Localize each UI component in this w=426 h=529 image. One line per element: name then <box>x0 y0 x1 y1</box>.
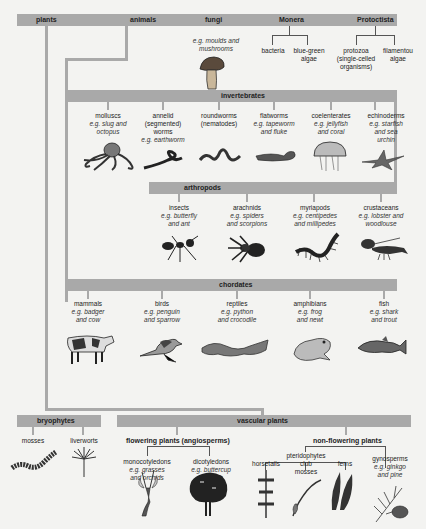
python-icon <box>200 338 270 360</box>
chord-drop-1 <box>87 291 89 299</box>
arthropod-crustaceans: crustaceanse.g. lobster andwoodlouse <box>350 204 412 228</box>
chordates-bar: chordates <box>67 279 397 291</box>
vascular-plants-title: vascular plants <box>237 417 288 424</box>
bryophyte-mosses: mosses <box>12 437 54 445</box>
protoctista-hbar <box>356 35 395 36</box>
invertebrate-echinoderms: echinodermse.g. starfishand seaurchin <box>358 112 414 144</box>
chord-drop-5 <box>383 291 385 299</box>
sparrow-icon <box>138 334 186 364</box>
nonflowering-hbar <box>305 446 386 447</box>
inv-drop-3 <box>218 102 220 110</box>
arth-drop-4 <box>380 194 382 202</box>
chordate-mammals: mammalse.g. badgerand cow <box>58 300 118 324</box>
pine-icon <box>372 484 412 524</box>
gymnosperms: gynospermse.g. ginkgoand pine <box>362 455 418 479</box>
fern-icon <box>328 470 356 514</box>
pteridophyte-horsetails: horsetails <box>245 460 287 468</box>
kingdom-fungi: fungi <box>205 16 222 23</box>
jellyfish-icon <box>310 140 350 172</box>
bryo-drop-1 <box>32 427 34 435</box>
spider-icon <box>226 234 270 264</box>
vascular-plants-bar: vascular plants <box>117 415 411 427</box>
arthropod-myriapods: myriapodse.g. centipedesand millipedes <box>283 204 347 228</box>
inv-drop-1 <box>107 102 109 110</box>
arth-drop-2 <box>246 194 248 202</box>
flowering-plants-title: flowering plants (angiosperms) <box>126 437 230 444</box>
roundworm-icon <box>198 146 242 164</box>
kingdoms-bar: plants animals fungi Monera Protoctista <box>17 14 397 26</box>
chord-drop-2 <box>161 291 163 299</box>
cow-icon <box>64 332 116 366</box>
kingdom-monera: Monera <box>279 16 304 23</box>
monera-blue-green-algae: blue-greenalgae <box>291 47 327 63</box>
arth-drop-3 <box>313 194 315 202</box>
orchid-icon <box>134 468 162 518</box>
flowering-drop-1 <box>147 446 148 456</box>
fungi-example: e.g. moulds andmushrooms <box>186 37 246 53</box>
inv-drop-4 <box>273 102 275 110</box>
invertebrate-annelid: annelid(segmented)wormse.g. earthworm <box>134 112 192 144</box>
arthropods-bar: arthropods <box>149 182 397 194</box>
pteridophyte-ferns: ferns <box>330 460 360 468</box>
frog-icon <box>290 332 336 364</box>
non-flowering-plants-title: non-flowering plants <box>313 437 382 444</box>
animals-connector-h <box>65 58 128 61</box>
arthropods-title: arthropods <box>184 184 221 191</box>
invertebrates-bar: invertebrates <box>67 90 397 102</box>
monera-bacteria: bacteria <box>257 47 289 55</box>
arthropod-arachnids: arachnidse.g. spidersand scorpions <box>216 204 278 228</box>
monera-drop-2 <box>307 35 308 45</box>
protoctista-drop-1 <box>356 35 357 45</box>
kingdom-animals: animals <box>130 16 156 23</box>
inv-drop-6 <box>374 102 376 110</box>
invertebrate-molluscs: molluscse.g. slug andoctopus <box>78 112 138 136</box>
invertebrates-title: invertebrates <box>221 92 265 99</box>
chord-drop-3 <box>236 291 238 299</box>
inv-drop-2 <box>162 102 164 110</box>
protoctista-drop-2 <box>394 35 395 45</box>
trout-icon <box>356 336 408 358</box>
plants-connector <box>45 26 48 410</box>
monera-stem <box>289 26 290 35</box>
starfish-icon <box>360 148 406 170</box>
protoctista-protozoa: protozoa(single-celledorganisms) <box>333 47 379 71</box>
protoctista-stem <box>375 26 376 35</box>
kingdom-plants: plants <box>36 16 57 23</box>
chordate-reptiles: reptilese.g. pythonand crocodile <box>206 300 268 324</box>
invertebrate-flatworms: flatwormse.g. tapewormand fluke <box>244 112 304 136</box>
bryophyte-liverworts: liverworts <box>62 437 106 445</box>
invertebrate-roundworms: roundworms(nematodes) <box>190 112 248 128</box>
ant-icon <box>158 234 202 264</box>
pteridophytes-title: pteridophytes <box>280 452 332 460</box>
plants-split-h <box>45 408 263 411</box>
chordate-birds: birdse.g. penguinand sparrow <box>132 300 192 324</box>
mushroom-icon <box>198 55 226 91</box>
vascular-drop-flowering <box>176 427 178 435</box>
earthworm-icon <box>140 148 186 170</box>
chord-drop-4 <box>309 291 311 299</box>
bryo-drop-2 <box>82 427 84 435</box>
vascular-drop-nonflowering <box>345 427 347 435</box>
animals-connector-v <box>125 26 128 60</box>
lobster-icon <box>360 234 410 262</box>
centipede-icon <box>294 232 340 264</box>
inv-drop-5 <box>330 102 332 110</box>
monera-hbar <box>272 35 308 36</box>
protoctista-filamentous-algae: filamentoualgae <box>380 47 416 63</box>
liverwort-icon <box>70 447 98 477</box>
flatworm-icon <box>254 148 298 164</box>
arth-drop-1 <box>178 194 180 202</box>
octopus-icon <box>80 142 136 172</box>
flowering-hbar <box>147 446 210 447</box>
moss-icon <box>10 450 58 476</box>
chordate-amphibians: amphibianse.g. frogand newt <box>280 300 340 324</box>
oak-tree-icon <box>186 470 230 516</box>
bryophytes-bar: bryophytes <box>17 415 101 427</box>
chordates-title: chordates <box>219 281 252 288</box>
club-moss-icon <box>289 474 323 518</box>
kingdom-protoctista: Protoctista <box>357 16 394 23</box>
arthropod-insects: insectse.g. butterflyand ant <box>150 204 208 228</box>
bryophytes-title: bryophytes <box>37 417 75 424</box>
monera-drop-1 <box>272 35 273 45</box>
chordate-fish: fishe.g. sharkand trout <box>354 300 414 324</box>
